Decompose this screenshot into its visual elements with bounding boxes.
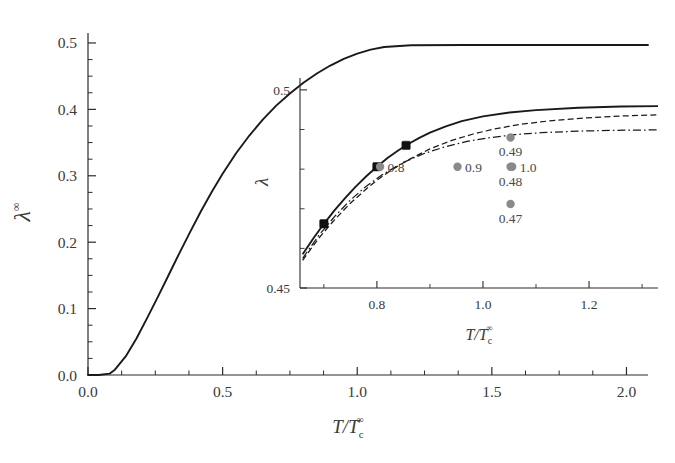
legend-dot-0.48 [506,163,514,171]
figure-panel: 0.00.51.01.52.00.00.10.20.30.40.5λ∞T/Tc∞… [0,0,675,463]
inset-marker-3 [402,141,410,149]
legend-dot-0.47 [506,200,514,208]
inset-y-tick-label: 0.45 [266,281,290,296]
main-y-tick-label: 0.3 [58,167,78,184]
main-x-tick-label: 0.0 [78,383,98,400]
svg-text:λ∞: λ∞ [9,203,35,223]
svg-text:λ: λ [251,178,272,187]
main-y-tick-label: 0.1 [58,300,77,317]
main-x-tick-label: 0.5 [213,383,233,400]
legend-dot-0.9 [453,163,461,171]
main-y-tick-label: 0.0 [58,367,78,384]
legend-label-0.9: 0.9 [465,160,482,175]
main-y-tick-label: 0.4 [58,101,78,118]
inset-x-tick-label: 1.2 [581,297,598,312]
legend-label-0.49: 0.49 [499,144,523,159]
inset-curve-dash-dot-curve [303,130,658,258]
legend-label-0.47: 0.47 [499,211,523,226]
legend-label-0.48: 0.48 [499,174,523,189]
main-x-tick-label: 2.0 [617,383,637,400]
legend-dot-0.8 [376,163,384,171]
inset-x-axis-title: T/Tc∞ [465,323,492,346]
inset-curve-solid-curve [303,106,658,254]
inset-marker-1 [320,220,328,228]
main-curve-lambda-infinity [88,45,648,375]
svg-text:T/Tc∞: T/Tc∞ [465,323,492,346]
main-y-tick-label: 0.5 [58,34,78,51]
inset-x-tick-label: 0.8 [368,297,385,312]
legend-label-0.8: 0.8 [388,160,405,175]
inset-x-tick-label: 1.0 [475,297,492,312]
svg-text:T/Tc∞: T/Tc∞ [332,414,363,440]
main-x-tick-label: 1.0 [348,383,368,400]
main-x-axis-title: T/Tc∞ [332,414,363,440]
legend-dot-0.49 [506,133,514,141]
main-y-tick-label: 0.2 [58,234,77,251]
main-y-axis-title: λ∞ [9,203,35,223]
inset-y-tick-label: 0.5 [273,83,290,98]
legend-label-1.0: 1.0 [520,160,537,175]
main-x-tick-label: 1.5 [482,383,502,400]
inset-y-axis-title: λ [251,178,272,187]
chart-canvas: 0.00.51.01.52.00.00.10.20.30.40.5λ∞T/Tc∞… [0,0,675,463]
